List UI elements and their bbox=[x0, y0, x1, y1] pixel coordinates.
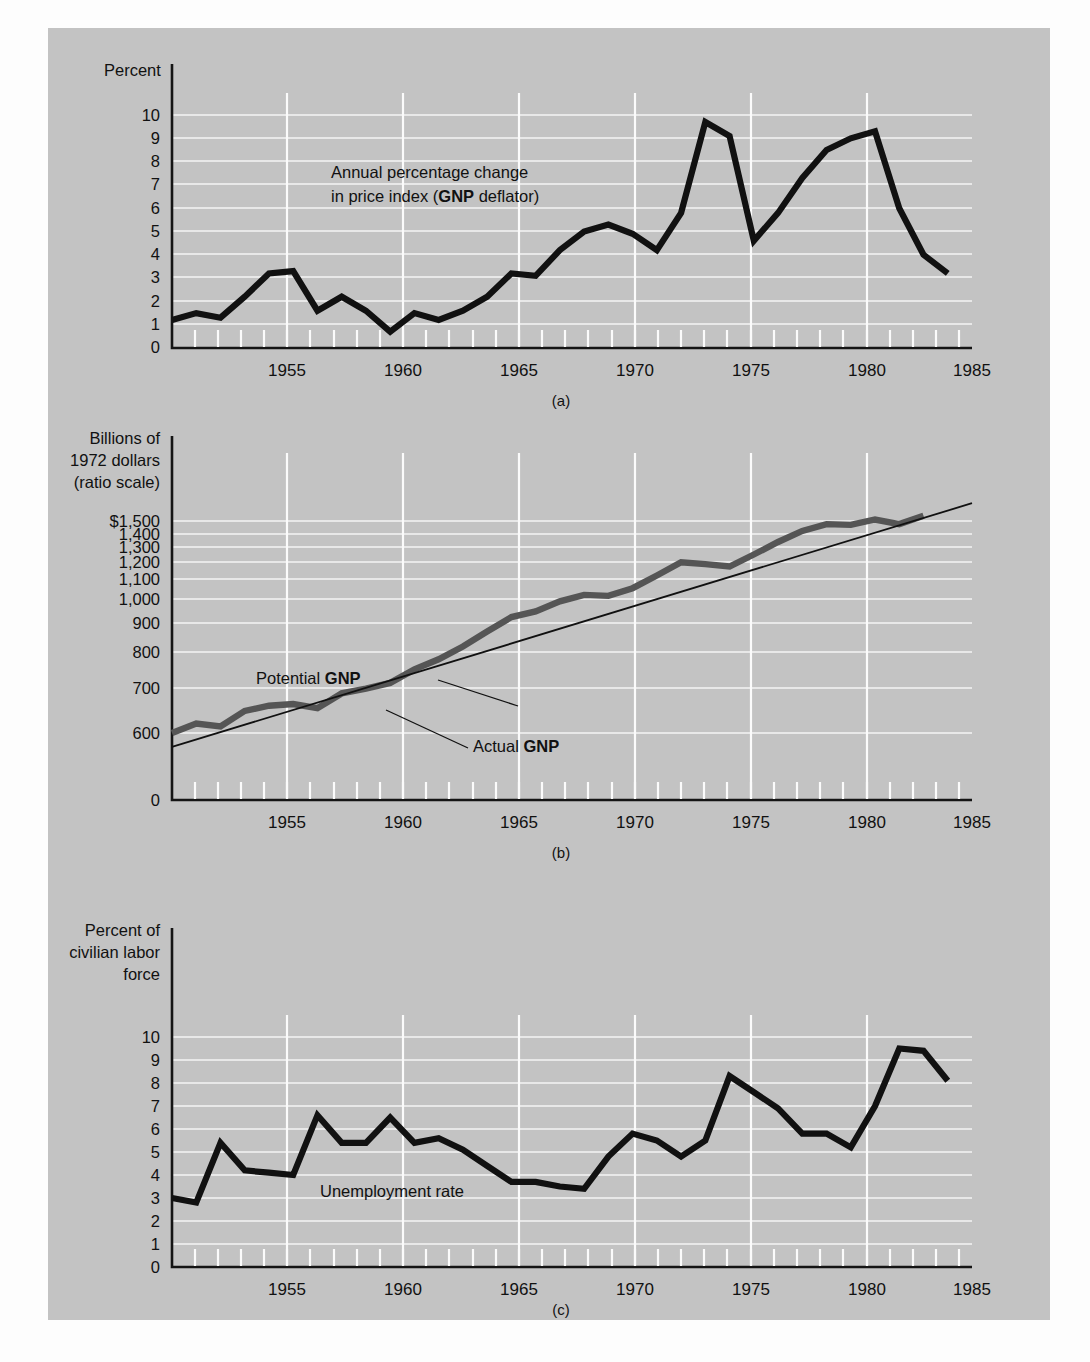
xtick-label: 1955 bbox=[268, 1280, 306, 1299]
xtick-label: 1970 bbox=[616, 361, 654, 380]
chart-c-y-axis-title: Percent of civilian labor force bbox=[69, 921, 160, 983]
chart-b-actual-gnp-line bbox=[172, 516, 924, 733]
chart-a-y-axis-title: Percent bbox=[104, 61, 161, 79]
chart-c-xtick-labels: 1955 1960 1965 1970 1975 1980 1985 bbox=[268, 1280, 991, 1299]
xtick-label: 1985 bbox=[953, 813, 991, 832]
xtick-label: 1955 bbox=[268, 361, 306, 380]
ytick-label: $1,500 bbox=[110, 512, 160, 530]
chart-a-axis bbox=[172, 64, 972, 348]
chart-b-axis bbox=[172, 436, 972, 800]
xtick-label: 1955 bbox=[268, 813, 306, 832]
ytick-label: 1,000 bbox=[119, 590, 160, 608]
ytick-label: 8 bbox=[151, 152, 160, 170]
chart-a-xtick-labels: 1955 1960 1965 1970 1975 1980 1985 bbox=[268, 361, 991, 380]
chart-c-annotation: Unemployment rate bbox=[320, 1182, 464, 1200]
chart-c-series-line bbox=[172, 1049, 948, 1203]
y-axis-title-line-3: (ratio scale) bbox=[74, 473, 160, 491]
potential-label-bold: GNP bbox=[325, 669, 361, 687]
chart-a-svg: Percent 0 1 2 3 4 5 6 7 8 9 10 1955 1960 bbox=[48, 28, 1050, 418]
chart-b-potential-gnp-line bbox=[172, 503, 972, 747]
chart-c-axis bbox=[172, 928, 972, 1267]
annotation-line-2: in price index (GNP deflator) bbox=[331, 187, 539, 205]
annotation-post: deflator) bbox=[474, 187, 539, 205]
chart-b-vgridlines bbox=[287, 453, 867, 800]
ytick-label: 1,100 bbox=[119, 570, 160, 588]
chart-c: Percent of civilian labor force 0 1 2 3 … bbox=[48, 890, 1050, 1320]
ytick-label: 10 bbox=[142, 106, 160, 124]
xtick-label: 1960 bbox=[384, 361, 422, 380]
y-axis-title-line-1: Billions of bbox=[89, 429, 160, 447]
xtick-label: 1985 bbox=[953, 1280, 991, 1299]
xtick-label: 1975 bbox=[732, 361, 770, 380]
y-axis-title-line-3: force bbox=[123, 965, 160, 983]
ytick-label: 3 bbox=[151, 1189, 160, 1207]
ytick-label: 5 bbox=[151, 222, 160, 240]
chart-b-caption: (b) bbox=[552, 844, 570, 861]
xtick-label: 1965 bbox=[500, 813, 538, 832]
y-axis-title-line-2: 1972 dollars bbox=[70, 451, 160, 469]
xtick-label: 1960 bbox=[384, 1280, 422, 1299]
chart-b-xticks bbox=[195, 782, 959, 799]
ytick-label: 6 bbox=[151, 1120, 160, 1138]
annotation-line-1: Annual percentage change bbox=[331, 163, 528, 181]
chart-a-vgridlines bbox=[287, 93, 867, 348]
chart-b-xtick-labels: 1955 1960 1965 1970 1975 1980 1985 bbox=[268, 813, 991, 832]
chart-c-ytick-labels: 0 1 2 3 4 5 6 7 8 9 10 bbox=[142, 1028, 160, 1276]
potential-gnp-label: Potential GNP bbox=[256, 669, 361, 687]
xtick-label: 1980 bbox=[848, 1280, 886, 1299]
ytick-label: 0 bbox=[151, 1258, 160, 1276]
ytick-label: 7 bbox=[151, 1097, 160, 1115]
ytick-label: 4 bbox=[151, 245, 160, 263]
xtick-label: 1965 bbox=[500, 361, 538, 380]
xtick-label: 1975 bbox=[732, 1280, 770, 1299]
chart-b: Billions of 1972 dollars (ratio scale) 0… bbox=[48, 418, 1050, 873]
ytick-label: 800 bbox=[132, 643, 160, 661]
chart-a-ytick-labels: 0 1 2 3 4 5 6 7 8 9 10 bbox=[142, 106, 160, 356]
y-axis-title-line-1: Percent of bbox=[85, 921, 161, 939]
ytick-label: 5 bbox=[151, 1143, 160, 1161]
annotation-pre: in price index ( bbox=[331, 187, 439, 205]
potential-label-pre: Potential bbox=[256, 669, 325, 687]
chart-c-svg: Percent of civilian labor force 0 1 2 3 … bbox=[48, 890, 1050, 1320]
actual-label-pre: Actual bbox=[473, 737, 523, 755]
figure-page: Percent 0 1 2 3 4 5 6 7 8 9 10 1955 1960 bbox=[0, 0, 1090, 1362]
chart-a-xticks bbox=[195, 330, 959, 347]
chart-b-ytick-labels: 0 600 700 800 900 1,000 1,100 1,200 1,30… bbox=[110, 512, 160, 809]
ytick-label: 4 bbox=[151, 1166, 160, 1184]
chart-c-xticks bbox=[195, 1249, 959, 1266]
ytick-label: 0 bbox=[151, 338, 160, 356]
ytick-label: 900 bbox=[132, 614, 160, 632]
xtick-label: 1980 bbox=[848, 813, 886, 832]
actual-label-bold: GNP bbox=[523, 737, 559, 755]
ytick-label: 0 bbox=[151, 791, 160, 809]
xtick-label: 1960 bbox=[384, 813, 422, 832]
actual-gnp-label: Actual GNP bbox=[473, 737, 559, 755]
xtick-label: 1975 bbox=[732, 813, 770, 832]
chart-c-caption: (c) bbox=[552, 1301, 570, 1318]
ytick-label: 6 bbox=[151, 199, 160, 217]
ytick-label: 7 bbox=[151, 175, 160, 193]
ytick-label: 700 bbox=[132, 679, 160, 697]
ytick-label: 9 bbox=[151, 1051, 160, 1069]
ytick-label: 1 bbox=[151, 315, 160, 333]
xtick-label: 1980 bbox=[848, 361, 886, 380]
annotation-bold: GNP bbox=[438, 187, 474, 205]
chart-b-svg: Billions of 1972 dollars (ratio scale) 0… bbox=[48, 418, 1050, 873]
ytick-label: 10 bbox=[142, 1028, 160, 1046]
ytick-label: 8 bbox=[151, 1074, 160, 1092]
chart-a-caption: (a) bbox=[552, 392, 570, 409]
chart-c-vgridlines bbox=[287, 1015, 867, 1267]
y-axis-title-line-2: civilian labor bbox=[69, 943, 160, 961]
xtick-label: 1965 bbox=[500, 1280, 538, 1299]
ytick-label: 600 bbox=[132, 724, 160, 742]
ytick-label: 3 bbox=[151, 268, 160, 286]
chart-b-y-axis-title: Billions of 1972 dollars (ratio scale) bbox=[70, 429, 160, 491]
xtick-label: 1985 bbox=[953, 361, 991, 380]
ytick-label: 1 bbox=[151, 1235, 160, 1253]
chart-a-gridlines bbox=[172, 115, 972, 324]
ytick-label: 9 bbox=[151, 129, 160, 147]
ytick-label: 2 bbox=[151, 292, 160, 310]
ytick-label: 2 bbox=[151, 1212, 160, 1230]
figure-panel: Percent 0 1 2 3 4 5 6 7 8 9 10 1955 1960 bbox=[48, 28, 1050, 1320]
xtick-label: 1970 bbox=[616, 1280, 654, 1299]
